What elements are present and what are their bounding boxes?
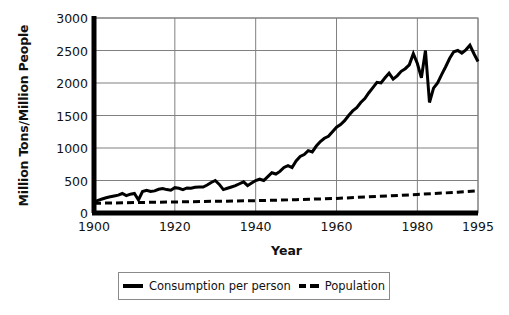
axis-lines <box>92 16 478 213</box>
y-tick-label: 3000 <box>40 11 88 26</box>
x-tick-label: 1920 <box>145 219 205 234</box>
x-axis-title: Year <box>94 243 479 258</box>
series-layer <box>94 45 478 203</box>
x-tick-label: 1960 <box>307 219 367 234</box>
y-tick-label: 1500 <box>40 108 88 123</box>
x-tick-label: 1995 <box>448 219 508 234</box>
legend-label-consumption: Consumption per person <box>149 279 291 293</box>
y-tick-label: 1000 <box>40 141 88 156</box>
y-axis-title: Million Tons/Million People <box>16 1 31 231</box>
y-tick-label: 500 <box>40 173 88 188</box>
x-tick-label: 1900 <box>64 219 124 234</box>
x-tick-label: 1980 <box>387 219 447 234</box>
gridlines <box>94 18 478 213</box>
chart-container: Million Tons/Million People 300025002000… <box>0 0 509 315</box>
x-tick-label: 1940 <box>226 219 286 234</box>
series-line-consumption <box>94 45 478 202</box>
legend-item-consumption: Consumption per person <box>123 279 291 293</box>
dashed-line-swatch-icon <box>299 284 319 288</box>
solid-line-swatch-icon <box>123 284 143 288</box>
legend-label-population: Population <box>325 279 385 293</box>
y-tick-label: 2500 <box>40 43 88 58</box>
chart-legend: Consumption per person Population <box>118 272 390 300</box>
y-tick-label: 2000 <box>40 76 88 91</box>
y-tick-label-group: 300025002000150010005000 <box>38 0 88 315</box>
legend-item-population: Population <box>299 279 385 293</box>
